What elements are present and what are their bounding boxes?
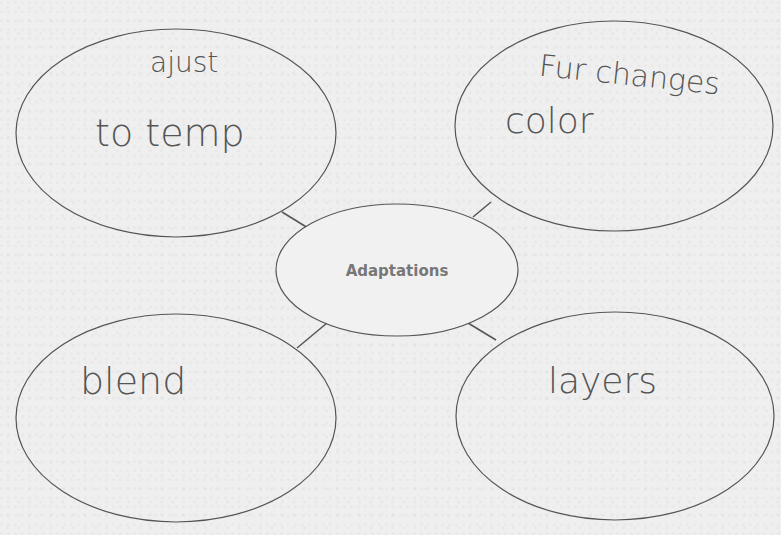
bubble-text-bottom-left: blend bbox=[80, 359, 186, 403]
bubble-bottom-left bbox=[16, 314, 336, 522]
bubble-text-top-right-line2: color bbox=[505, 100, 594, 141]
connector-bottom-right bbox=[468, 323, 496, 340]
bubble-bottom-right bbox=[456, 312, 774, 520]
bubble-text-bottom-right: layers bbox=[548, 360, 657, 401]
bubble-text-top-left-line1: ajust bbox=[150, 46, 218, 79]
center-label: Adaptations bbox=[346, 262, 449, 280]
bubble-text-top-left-line2: to temp bbox=[95, 111, 245, 155]
connector-top-right bbox=[473, 202, 491, 217]
bubble-text-top-right-line1: Fur changes bbox=[538, 48, 722, 102]
connector-bottom-left bbox=[297, 323, 327, 348]
connector-top-left bbox=[282, 212, 308, 228]
bubble-map: Adaptations ajust to temp Fur changes co… bbox=[0, 0, 781, 535]
bubble-top-right bbox=[455, 21, 773, 231]
